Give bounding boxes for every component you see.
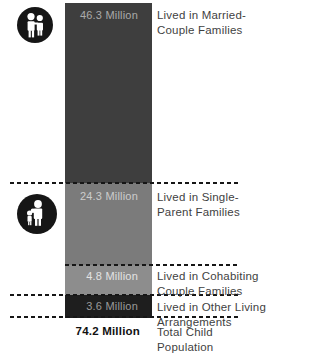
- bar-segment-other: 3.6 Million: [65, 295, 152, 318]
- bar-segment-single-parent: 24.3 Million: [65, 183, 152, 265]
- single-parent-icon: [17, 194, 57, 234]
- segment-description-single-parent: Lived in Single- Parent Families: [157, 190, 240, 220]
- segment-description-cohabiting: Lived in Cohabiting Couple Families: [157, 269, 259, 299]
- divider-married-single: [10, 182, 238, 184]
- segment-value-cohabiting: 4.8 Million: [86, 270, 138, 282]
- segment-value-other: 3.6 Million: [86, 300, 138, 312]
- married-couple-icon-svg: [17, 7, 53, 43]
- single-parent-icon-svg: [17, 194, 57, 234]
- bar-segment-cohabiting: 4.8 Million: [65, 265, 152, 295]
- divider-single-cohabiting: [65, 264, 238, 266]
- total-value-label: 74.2 Million: [0, 325, 140, 337]
- segment-value-married-couple: 46.3 Million: [80, 9, 138, 21]
- segment-description-married-couple: Lived in Married- Couple Families: [157, 8, 246, 38]
- bar-segment-married-couple: 46.3 Million: [65, 3, 152, 183]
- stacked-bar: 46.3 Million 24.3 Million 4.8 Million 3.…: [65, 3, 152, 318]
- total-description: Total Child Population: [157, 325, 213, 355]
- child-living-arrangements-infographic: 46.3 Million 24.3 Million 4.8 Million 3.…: [0, 0, 333, 358]
- married-couple-icon: [17, 7, 53, 43]
- segment-value-single-parent: 24.3 Million: [80, 190, 138, 202]
